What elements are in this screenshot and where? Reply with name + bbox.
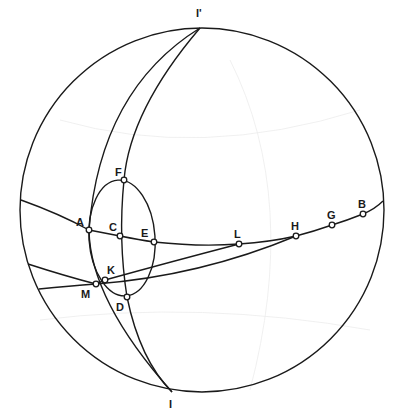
label-H: H: [291, 220, 299, 232]
label-M: M: [81, 288, 90, 300]
label-B: B: [358, 198, 366, 210]
point-H-marker: [293, 233, 299, 239]
label-A: A: [76, 216, 84, 228]
label-F: F: [115, 166, 122, 178]
point-E-marker: [151, 239, 157, 245]
pole-I: I: [169, 398, 172, 410]
point-L-marker: [236, 241, 242, 247]
label-E: E: [141, 227, 148, 239]
label-I-prime: I': [196, 7, 202, 19]
point-K: K: [102, 264, 115, 283]
point-G-marker: [329, 222, 335, 228]
meridian-F-C-D: [122, 28, 200, 392]
point-K-marker: [102, 277, 108, 283]
point-C-marker: [117, 233, 123, 239]
point-B: B: [358, 198, 366, 217]
label-G: G: [327, 209, 336, 221]
point-A-marker: [86, 227, 92, 233]
arc-M-K-L: [28, 244, 239, 284]
label-I: I: [169, 398, 172, 410]
stereonet-diagram: I' I A C E F K M D L H G: [0, 0, 401, 416]
point-B-marker: [360, 211, 366, 217]
label-L: L: [234, 228, 241, 240]
point-D-marker: [124, 294, 130, 300]
meridian-A-M: [89, 28, 200, 392]
pole-I-prime: I': [196, 7, 202, 19]
point-G: G: [327, 209, 336, 228]
point-H: H: [291, 220, 299, 239]
point-M-marker: [93, 281, 99, 287]
label-C: C: [109, 221, 117, 233]
label-K: K: [107, 264, 115, 276]
point-C: C: [109, 221, 123, 239]
point-F-marker: [121, 177, 127, 183]
label-D: D: [116, 301, 124, 313]
